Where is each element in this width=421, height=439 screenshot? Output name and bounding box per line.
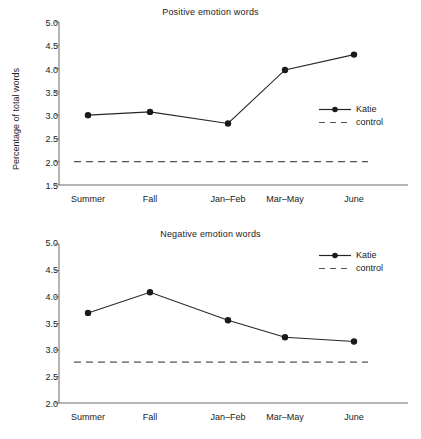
legend-item-katie: Katie — [318, 104, 383, 115]
chart-negative-emotion-words: Negative emotion words Percentage of tot… — [0, 220, 421, 439]
legend-label-control: control — [356, 263, 383, 274]
legend-label-control: control — [356, 117, 383, 128]
legend-item-katie: Katie — [318, 250, 383, 261]
legend-positive: Katie control — [318, 104, 383, 130]
legend-item-control: control — [318, 117, 383, 128]
legend-item-control: control — [318, 263, 383, 274]
chart-positive-emotion-words: Positive emotion words Percentage of tot… — [0, 0, 421, 220]
legend-label-katie: Katie — [356, 250, 377, 261]
legend-swatch-solid-marker-icon — [318, 250, 352, 261]
legend-swatch-dashed-icon — [318, 117, 352, 128]
legend-negative: Katie control — [318, 250, 383, 276]
legend-swatch-dashed-icon — [318, 263, 352, 274]
legend-label-katie: Katie — [356, 104, 377, 115]
legend-swatch-solid-marker-icon — [318, 104, 352, 115]
